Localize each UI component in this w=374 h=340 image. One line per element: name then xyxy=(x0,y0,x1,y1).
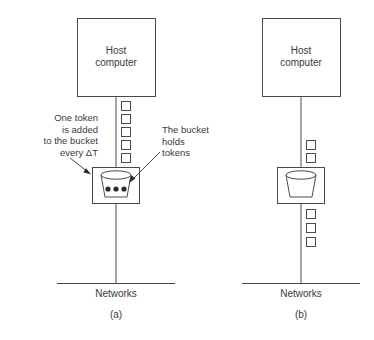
token-square xyxy=(307,210,316,219)
bucket-rim-b xyxy=(286,171,316,179)
token-square xyxy=(122,115,131,124)
annotation-line: The bucket xyxy=(162,124,209,135)
networks-label-text: Networks xyxy=(95,288,137,299)
annotation-line: to the bucket xyxy=(44,135,98,146)
bucket-token-dot xyxy=(121,186,126,191)
networks-label-b: Networks xyxy=(241,288,361,300)
annotation-line: tokens xyxy=(162,147,190,158)
token-square xyxy=(307,141,316,150)
token-square xyxy=(307,224,316,233)
token-square xyxy=(122,141,131,150)
panel-sub-label-a: (a) xyxy=(96,309,136,321)
bucket-rim-a xyxy=(101,171,131,179)
host-computer-label-a: Hostcomputer xyxy=(66,45,166,69)
bucket-token-dot xyxy=(113,186,118,191)
annotation-line: One token xyxy=(54,112,98,123)
figure-canvas: Hostcomputer One tokenis addedto the buc… xyxy=(0,0,374,340)
panel-sub-label-b: (b) xyxy=(281,309,321,321)
annotation-line: holds xyxy=(162,136,185,147)
token-square xyxy=(307,238,316,247)
panel-sub-label-text: (b) xyxy=(295,309,307,320)
annotation-bucket-holds-tokens: The bucketholdstokens xyxy=(162,124,228,159)
panel-sub-label-text: (a) xyxy=(110,309,122,320)
bucket-token-dot xyxy=(105,186,110,191)
token-square xyxy=(122,154,131,163)
annotation-one-token-added: One tokenis addedto the bucketevery ΔT xyxy=(12,112,98,158)
leader-arrow-one-token-added xyxy=(70,158,91,175)
networks-label-text: Networks xyxy=(280,288,322,299)
annotation-line: is added xyxy=(62,124,98,135)
token-square xyxy=(122,102,131,111)
host-computer-label-b: Hostcomputer xyxy=(251,45,351,69)
token-square xyxy=(307,154,316,163)
networks-label-a: Networks xyxy=(56,288,176,300)
host-label-line1: Host xyxy=(106,45,127,56)
host-label-line1: Host xyxy=(291,45,312,56)
host-label-line2: computer xyxy=(95,57,137,68)
annotation-line: every ΔT xyxy=(60,147,98,158)
host-label-line2: computer xyxy=(280,57,322,68)
token-square xyxy=(122,128,131,137)
